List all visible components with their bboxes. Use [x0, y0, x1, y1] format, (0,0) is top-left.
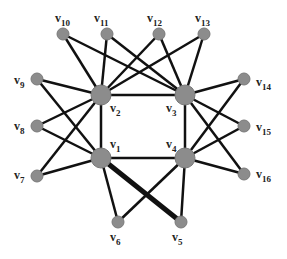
node-v6 — [112, 216, 124, 228]
node-v9 — [31, 73, 43, 85]
edge-v8-v2 — [37, 95, 101, 126]
label-v13: v13 — [195, 11, 211, 28]
node-v8 — [31, 120, 43, 132]
node-v10 — [57, 28, 69, 40]
label-v10: v10 — [55, 11, 71, 28]
label-v9: v9 — [14, 73, 25, 90]
edges-layer — [37, 34, 244, 222]
edge-v4-v6 — [118, 158, 185, 222]
node-v3 — [175, 85, 195, 105]
edge-v7-v2 — [37, 95, 101, 176]
node-v16 — [238, 168, 250, 180]
edge-v1-v5 — [101, 158, 181, 222]
label-v3: v3 — [166, 101, 177, 118]
labels-layer: v1v2v3v4v5v6v7v8v9v10v11v12v13v14v15v16 — [14, 11, 272, 247]
node-v5 — [175, 216, 187, 228]
node-v7 — [31, 170, 43, 182]
node-v1 — [91, 148, 111, 168]
node-v4 — [175, 148, 195, 168]
label-v2: v2 — [110, 101, 121, 118]
label-v14: v14 — [256, 75, 272, 92]
node-v13 — [198, 28, 210, 40]
node-v15 — [238, 120, 250, 132]
label-v16: v16 — [256, 167, 272, 184]
label-v11: v11 — [94, 11, 109, 28]
edge-v8-v1 — [37, 126, 101, 158]
label-v12: v12 — [147, 11, 163, 28]
node-v14 — [238, 73, 250, 85]
label-v5: v5 — [172, 230, 183, 247]
label-v8: v8 — [14, 119, 25, 136]
label-v7: v7 — [14, 168, 25, 185]
nodes-layer — [31, 28, 250, 228]
label-v6: v6 — [110, 230, 121, 247]
node-v2 — [91, 85, 111, 105]
node-v12 — [153, 28, 165, 40]
node-v11 — [101, 28, 113, 40]
label-v15: v15 — [256, 120, 272, 137]
label-v4: v4 — [166, 137, 177, 154]
label-v1: v1 — [110, 137, 121, 154]
graph-diagram: v1v2v3v4v5v6v7v8v9v10v11v12v13v14v15v16 — [0, 0, 287, 259]
